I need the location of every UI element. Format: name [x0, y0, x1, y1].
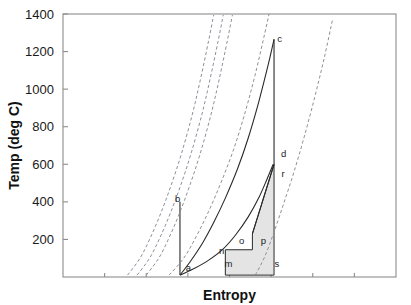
- point-label-m: m: [225, 258, 233, 269]
- y-axis-tick-label: 1400: [25, 7, 54, 22]
- chart-canvas: 200400600800100012001400abcdrsmnopEntrop…: [0, 0, 411, 305]
- point-label-c: c: [277, 33, 282, 44]
- point-label-o: o: [239, 235, 244, 246]
- y-axis-tick-label: 400: [32, 194, 54, 209]
- x-axis-title: Entropy: [203, 287, 256, 303]
- y-axis-tick-label: 600: [32, 157, 54, 172]
- y-axis-title: Temp (deg C): [6, 101, 22, 189]
- y-axis-tick-label: 200: [32, 232, 54, 247]
- point-label-b: b: [175, 193, 180, 204]
- temperature-entropy-chart: 200400600800100012001400abcdrsmnopEntrop…: [0, 0, 411, 305]
- point-label-p: p: [261, 235, 266, 246]
- y-axis-tick-label: 1000: [25, 82, 54, 97]
- point-label-r: r: [282, 168, 285, 179]
- point-label-a: a: [186, 262, 192, 273]
- point-label-s: s: [274, 258, 279, 269]
- y-axis-tick-label: 800: [32, 119, 54, 134]
- point-label-d: d: [281, 148, 286, 159]
- plot-frame: [63, 14, 396, 277]
- y-axis-tick-label: 1200: [25, 44, 54, 59]
- point-label-n: n: [219, 245, 224, 256]
